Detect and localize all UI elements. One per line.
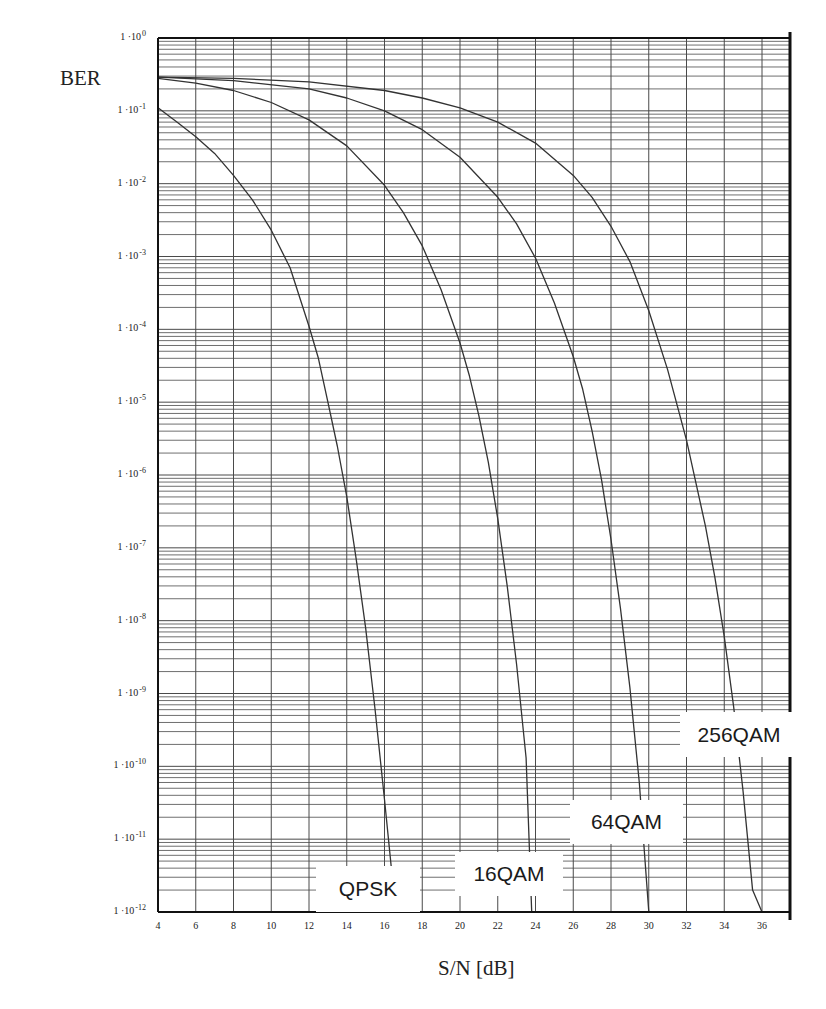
x-axis-title: S/N [dB]	[438, 956, 514, 981]
ber-chart-plot	[0, 0, 826, 1009]
y-tick-label: 1 ·10-8	[76, 612, 146, 625]
y-tick-label: 1 ·10-10	[76, 757, 146, 770]
series-label-16qam: 16QAM	[455, 852, 563, 896]
y-tick-label: 1 ·10-4	[76, 320, 146, 333]
x-tick-label: 14	[332, 920, 362, 931]
x-tick-label: 18	[407, 920, 437, 931]
x-tick-label: 24	[521, 920, 551, 931]
curve-qpsk	[158, 108, 400, 912]
y-tick-label: 1 ·10-6	[76, 466, 146, 479]
x-tick-label: 30	[634, 920, 664, 931]
series-label-qpsk: QPSK	[316, 866, 420, 912]
y-tick-label: 1 ·10-9	[76, 685, 146, 698]
series-label-64qam: 64QAM	[570, 800, 683, 844]
y-tick-label: 1 ·100	[76, 29, 146, 42]
y-tick-label: 1 ·10-3	[76, 248, 146, 261]
x-tick-label: 4	[143, 920, 173, 931]
curve-64qam	[158, 77, 649, 912]
y-tick-label: 1 ·10-7	[76, 539, 146, 552]
x-tick-label: 12	[294, 920, 324, 931]
y-axis-title: BER	[60, 66, 101, 91]
curve-16qam	[158, 78, 532, 912]
x-tick-label: 28	[596, 920, 626, 931]
x-tick-label: 16	[370, 920, 400, 931]
x-tick-label: 8	[219, 920, 249, 931]
y-tick-label: 1 ·10-12	[76, 903, 146, 916]
x-tick-label: 34	[709, 920, 739, 931]
y-tick-label: 1 ·10-2	[76, 175, 146, 188]
plot-frame	[158, 32, 790, 920]
y-tick-label: 1 ·10-11	[76, 830, 146, 843]
x-tick-label: 36	[747, 920, 777, 931]
x-tick-label: 22	[483, 920, 513, 931]
y-tick-label: 1 ·10-5	[76, 393, 146, 406]
x-tick-label: 6	[181, 920, 211, 931]
grid-lines	[158, 38, 790, 912]
x-tick-label: 10	[256, 920, 286, 931]
y-tick-label: 1 ·10-1	[76, 102, 146, 115]
x-tick-label: 20	[445, 920, 475, 931]
series-label-256qam: 256QAM	[680, 712, 798, 757]
x-tick-label: 32	[672, 920, 702, 931]
x-tick-label: 26	[558, 920, 588, 931]
